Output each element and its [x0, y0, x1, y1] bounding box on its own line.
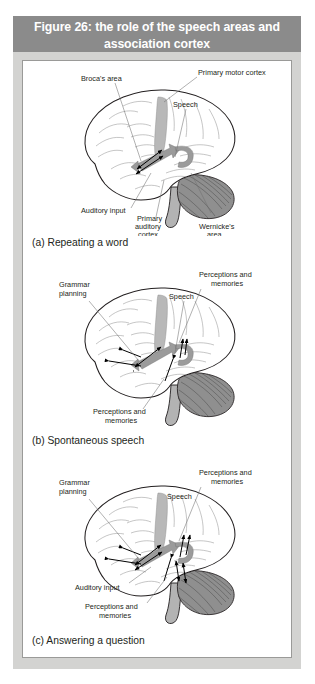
panel-a-diagram: Broca's area Primary motor cortex Speech… [23, 61, 291, 236]
panel-a-caption: (a) Repeating a word [32, 237, 128, 248]
label-perceptions-memories-bottom-line1: Perceptions and [85, 602, 138, 611]
figure-title-bar: Figure 26: the role of the speech areas … [13, 16, 301, 52]
label-speech: Speech [169, 292, 194, 301]
label-grammar-planning-line1: Grammar [59, 280, 90, 289]
label-perceptions-memories-top-line2: memories [211, 279, 243, 288]
label-primary-motor-cortex: Primary motor cortex [198, 68, 266, 77]
label-perceptions-memories-bottom-line1: Perceptions and [93, 407, 146, 416]
label-auditory-input: Auditory input [81, 206, 126, 215]
panel-a-repeating-a-word: Broca's area Primary motor cortex Speech… [23, 61, 291, 259]
label-perceptions-memories-top-line2: memories [211, 477, 243, 486]
label-speech: Speech [173, 100, 198, 109]
label-brocas-area: Broca's area [81, 74, 123, 83]
label-grammar-planning-line1: Grammar [59, 478, 90, 487]
panel-b-spontaneous-speech: Grammar planning Perceptions and memorie… [23, 259, 291, 457]
label-perceptions-memories-top-line1: Perceptions and [199, 468, 252, 477]
panel-c-diagram: Grammar planning Perceptions and memorie… [23, 457, 291, 632]
label-perceptions-memories-bottom-line2: memories [105, 416, 137, 425]
label-wernickes-area-line2: area [207, 230, 223, 236]
panel-c-caption: (c) Answering a question [32, 635, 145, 646]
panel-c-answering-a-question: Grammar planning Perceptions and memorie… [23, 457, 291, 657]
panel-b-caption: (b) Spontaneous speech [32, 435, 144, 446]
figure-title-line-2: association cortex [13, 36, 301, 53]
label-auditory-input: Auditory input [75, 583, 120, 592]
label-perceptions-memories-bottom-line2: memories [99, 611, 131, 620]
label-perceptions-memories-top-line1: Perceptions and [199, 270, 252, 279]
cerebellum [177, 571, 234, 615]
figure-content-area: Broca's area Primary motor cortex Speech… [22, 60, 292, 658]
figure-title-line-1: Figure 26: the role of the speech areas … [13, 19, 301, 36]
label-grammar-planning-line2: planning [59, 289, 87, 298]
cerebellum-wernickes-region [177, 175, 234, 219]
cerebellum [177, 373, 234, 417]
label-primary-auditory-cortex-line3: cortex [138, 230, 158, 236]
label-speech: Speech [167, 492, 192, 501]
figure-root: Figure 26: the role of the speech areas … [0, 0, 315, 684]
label-grammar-planning-line2: planning [59, 487, 87, 496]
panel-b-diagram: Grammar planning Perceptions and memorie… [23, 259, 291, 434]
